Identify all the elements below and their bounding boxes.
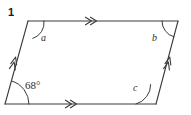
angle-label-c: c [133, 82, 138, 93]
geometry-figure-container: 1 a b c 68° [0, 0, 191, 115]
parallelogram-diagram: 1 a b c 68° [0, 0, 191, 115]
figure-number: 1 [8, 6, 14, 18]
angle-label-b: b [152, 32, 157, 43]
angle-label-a: a [41, 32, 46, 43]
angle-label-68: 68° [25, 79, 40, 91]
